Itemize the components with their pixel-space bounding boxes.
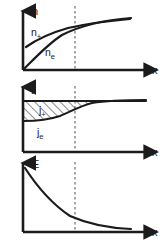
plot-canvas: n x n+ ne j x bbox=[0, 0, 167, 245]
curve-label-j-e: je bbox=[36, 126, 44, 141]
physics-plot-figure: n x n+ ne j x bbox=[0, 0, 167, 245]
panel-current: j x j+ je bbox=[23, 82, 158, 158]
x-axis-label-field: x bbox=[152, 226, 158, 238]
y-axis-label-field: E bbox=[32, 158, 39, 170]
x-axis-label-current: x bbox=[152, 146, 158, 158]
curve-label-n-plus: n+ bbox=[31, 26, 42, 41]
x-axis-label-density: x bbox=[152, 64, 158, 76]
curve-label-n-e: ne bbox=[45, 46, 55, 61]
curve-n-plus bbox=[26, 19, 130, 47]
curve-e-field bbox=[25, 168, 131, 229]
panel-density: n x n+ ne bbox=[23, 5, 158, 76]
panel-field: E x bbox=[23, 158, 158, 238]
y-axis-label-density: n bbox=[32, 5, 38, 17]
y-axis-label-current: j bbox=[31, 82, 34, 94]
